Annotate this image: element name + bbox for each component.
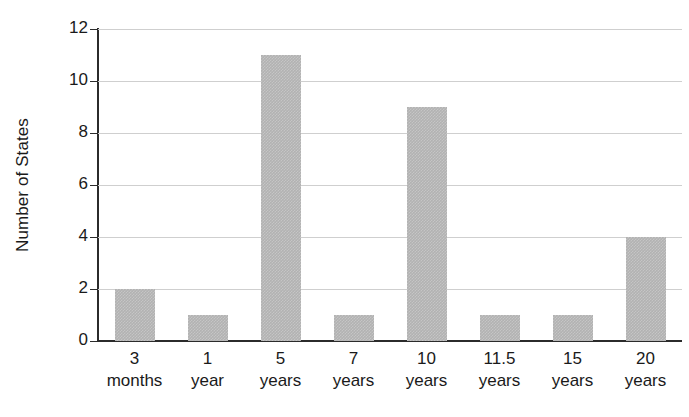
bar bbox=[407, 107, 447, 341]
x-axis-tick-label-value: 5 bbox=[244, 348, 317, 370]
bar bbox=[261, 55, 301, 341]
x-axis-tick-label-unit: years bbox=[536, 370, 609, 392]
x-axis-tick-label: 10years bbox=[390, 348, 463, 392]
x-axis-tick-label-unit: years bbox=[317, 370, 390, 392]
x-axis-tick-label-unit: years bbox=[463, 370, 536, 392]
y-axis-tick-label: 8 bbox=[46, 122, 88, 142]
y-axis-tick-mark bbox=[90, 341, 98, 342]
x-axis-tick-label-value: 15 bbox=[536, 348, 609, 370]
gridline bbox=[98, 81, 682, 82]
x-axis-tick-label-unit: years bbox=[390, 370, 463, 392]
x-axis-tick-label-unit: months bbox=[98, 370, 171, 392]
gridline bbox=[98, 289, 682, 290]
x-axis-tick-label-value: 7 bbox=[317, 348, 390, 370]
x-axis-tick-label-unit: years bbox=[244, 370, 317, 392]
x-axis-tick-label: 1year bbox=[171, 348, 244, 392]
bar bbox=[626, 237, 666, 341]
bar bbox=[480, 315, 520, 341]
y-axis-tick-mark bbox=[90, 29, 98, 30]
x-axis-tick-label-value: 3 bbox=[98, 348, 171, 370]
x-axis-tick-label: 11.5years bbox=[463, 348, 536, 392]
bar bbox=[188, 315, 228, 341]
x-axis-tick-labels: 3months1year5years7years10years11.5years… bbox=[98, 348, 682, 408]
y-axis-tick-mark bbox=[90, 289, 98, 290]
gridline bbox=[98, 133, 682, 134]
y-axis-tick-label: 6 bbox=[46, 174, 88, 194]
gridline bbox=[98, 185, 682, 186]
gridline bbox=[98, 29, 682, 30]
x-axis-tick-label: 15years bbox=[536, 348, 609, 392]
y-axis-tick-mark bbox=[90, 133, 98, 134]
y-axis-tick-mark bbox=[90, 81, 98, 82]
y-axis-tick-label: 4 bbox=[46, 226, 88, 246]
y-axis-tick-label: 0 bbox=[46, 330, 88, 350]
bar bbox=[553, 315, 593, 341]
bar-chart-figure: Number of States 024681012 3months1year5… bbox=[0, 0, 689, 417]
x-axis-tick-label-value: 11.5 bbox=[463, 348, 536, 370]
gridline bbox=[98, 237, 682, 238]
x-axis-tick-label-value: 20 bbox=[609, 348, 682, 370]
x-axis-tick-label-value: 1 bbox=[171, 348, 244, 370]
x-axis-tick-label: 3months bbox=[98, 348, 171, 392]
plot-area bbox=[98, 29, 682, 341]
x-axis-tick-label: 7years bbox=[317, 348, 390, 392]
bar bbox=[334, 315, 374, 341]
y-axis-tick-label: 2 bbox=[46, 278, 88, 298]
y-axis-tick-labels: 024681012 bbox=[0, 0, 88, 417]
x-axis-tick-label-value: 10 bbox=[390, 348, 463, 370]
x-axis-tick-label: 20years bbox=[609, 348, 682, 392]
y-axis-tick-label: 10 bbox=[46, 70, 88, 90]
x-axis-tick-label: 5years bbox=[244, 348, 317, 392]
y-axis-tick-mark bbox=[90, 185, 98, 186]
bar bbox=[115, 289, 155, 341]
y-axis-tick-mark bbox=[90, 237, 98, 238]
x-axis-tick-label-unit: years bbox=[609, 370, 682, 392]
x-axis-tick-label-unit: year bbox=[171, 370, 244, 392]
y-axis-tick-label: 12 bbox=[46, 18, 88, 38]
